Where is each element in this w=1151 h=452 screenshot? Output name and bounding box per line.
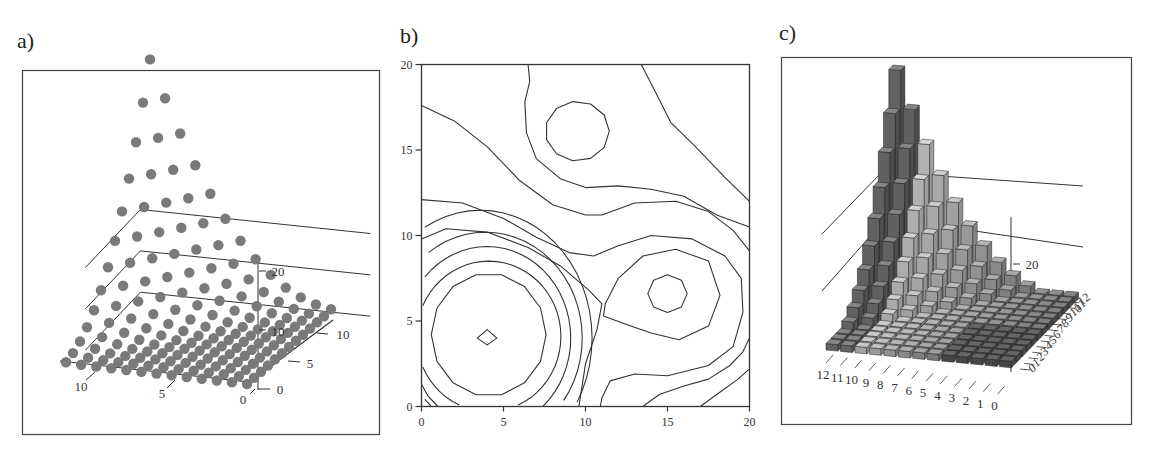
data-point [197,374,207,384]
tick-mark [898,368,905,376]
data-point [121,365,131,375]
contour-line [547,102,610,161]
data-point [155,292,165,302]
data-point [163,319,173,329]
data-point [205,189,215,199]
tick-mark [86,372,95,380]
data-point [119,328,129,338]
data-point [296,292,306,302]
data-point [161,197,171,207]
data-point [75,336,85,346]
data-point [252,301,262,311]
data-point [139,202,149,212]
data-point [274,297,284,307]
panel-b-y-tick-5: 5 [407,314,413,328]
bar [927,349,943,361]
data-point [132,231,142,241]
panel-a-x-tick-0: 0 [240,392,247,407]
tick-mark [826,355,833,363]
data-point [90,344,100,354]
panel-b-plot-frame [422,65,750,407]
data-point [220,214,230,224]
bar [985,354,1001,366]
tick-mark [883,365,890,373]
data-point [162,272,172,282]
data-point [148,309,158,319]
panel-b-contour-plot: 0055101015152020 [401,58,756,429]
panel-c-x-tick-3: 3 [948,390,955,405]
data-point [118,281,128,291]
contour-line [643,338,750,406]
data-point [131,137,141,147]
panel-a-y-tick-0: 0 [277,382,284,397]
data-point [267,308,277,318]
panel-c-x-tick-10: 10 [845,372,858,387]
data-point [289,304,299,314]
data-point [199,283,209,293]
data-point [96,285,106,295]
data-point [185,314,195,324]
data-point [236,291,246,301]
data-point [229,305,239,315]
data-point [200,321,210,331]
bar [956,352,972,364]
data-point [235,236,245,246]
data-point [145,54,155,64]
data-point [243,274,253,284]
panel-c-x-tick-0: 0 [991,398,998,413]
data-point [117,206,127,216]
panel-c-x-tick-7: 7 [891,380,898,395]
data-point [134,335,144,345]
tick-mark [840,358,847,366]
tick-mark [317,333,328,334]
panel-c-x-tick-5: 5 [920,385,927,400]
contour-line [477,330,497,345]
data-point [184,267,194,277]
data-point [147,253,157,263]
panel-a-3d-scatter: 105005102010 [23,54,380,434]
panel-a-z-tick-10: 10 [272,324,285,339]
data-point [222,317,232,327]
tick-mark [250,389,255,394]
panel-a-x-tick-10: 10 [75,379,88,394]
data-point [136,367,146,377]
panel-b-y-tick-15: 15 [401,143,413,157]
panel-c-z-tick-20: 20 [1026,257,1039,272]
data-point [141,323,151,333]
contour-line [423,367,460,405]
data-point [281,282,291,292]
tick-mark [288,361,300,362]
tick-mark [955,378,962,386]
data-point [227,377,237,387]
data-point [176,223,186,233]
data-point [177,287,187,297]
bar [884,345,900,357]
data-point [250,254,260,264]
panel-c-x-tick-11: 11 [831,370,844,385]
tick-mark [940,376,947,384]
data-point [76,360,86,370]
data-point [138,97,148,107]
data-point [126,313,136,323]
data-point [245,313,255,323]
data-point [112,339,122,349]
tick-mark [167,380,175,388]
contour-line [641,65,749,202]
data-point [103,262,113,272]
data-point [151,368,161,378]
data-point [183,193,193,203]
data-point [221,279,231,289]
contour-line [700,369,749,407]
data-point [125,258,135,268]
data-point [168,165,178,175]
data-point [207,310,217,320]
panel-c-x-tick-2: 2 [963,393,970,408]
panel-b-y-tick-0: 0 [407,400,413,414]
data-point [133,296,143,306]
data-point [61,357,71,367]
figure-canvas: 105005102010 0055101015152020 2012111098… [0,0,1151,452]
data-point [311,299,321,309]
panel-c-x-tick-4: 4 [934,388,941,403]
data-point [228,259,238,269]
data-point [89,305,99,315]
